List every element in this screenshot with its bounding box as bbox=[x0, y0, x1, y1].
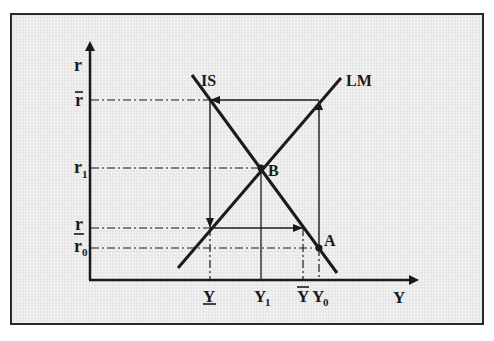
y0-subscript: 0 bbox=[323, 296, 329, 308]
point-b bbox=[258, 165, 265, 172]
lm-label: LM bbox=[346, 72, 372, 89]
r-tick-labels: r r 1 r r 0 bbox=[74, 90, 88, 258]
is-curve bbox=[192, 75, 337, 273]
vertical-guides bbox=[210, 228, 319, 279]
y-tick-labels: Y Y 1 Y Y 0 bbox=[203, 287, 329, 308]
is-lm-diagram: IS LM B A r Y r r 1 r r 0 Y Y 1 Y Y 0 bbox=[0, 0, 494, 341]
point-a-label: A bbox=[324, 232, 336, 249]
r1-label: r bbox=[74, 157, 82, 177]
r0-label: r bbox=[74, 236, 82, 256]
r0-subscript: 0 bbox=[82, 246, 88, 258]
is-label: IS bbox=[201, 72, 216, 89]
r-bar-label: r bbox=[75, 90, 83, 110]
point-a bbox=[316, 245, 323, 252]
horizontal-guides bbox=[91, 100, 319, 248]
y1-subscript: 1 bbox=[265, 296, 271, 308]
y-under-label: Y bbox=[203, 287, 215, 306]
y-bar-label: Y bbox=[297, 287, 309, 306]
point-b-label: B bbox=[268, 162, 279, 179]
r1-subscript: 1 bbox=[82, 168, 88, 180]
y-axis-label: r bbox=[74, 55, 82, 75]
lm-curve bbox=[178, 78, 341, 268]
x-axis-label: Y bbox=[393, 288, 405, 307]
r-under-label: r bbox=[75, 214, 83, 234]
